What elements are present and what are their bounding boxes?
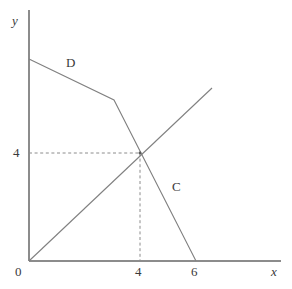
chart-figure: y x 0 4 4 6 D C (0, 0, 292, 289)
curve-d-demand (29, 59, 196, 261)
curve-d-label: D (66, 56, 75, 69)
y-axis-label: y (12, 14, 18, 27)
equilibrium-point-marker (139, 152, 142, 155)
curve-c-label: C (172, 180, 181, 193)
origin-label: 0 (15, 265, 22, 278)
y-tick-label-4: 4 (13, 146, 20, 159)
x-tick-label-6: 6 (191, 265, 198, 278)
chart-plot-area (0, 0, 292, 289)
x-axis-label: x (271, 265, 277, 278)
x-tick-label-4: 4 (135, 265, 142, 278)
